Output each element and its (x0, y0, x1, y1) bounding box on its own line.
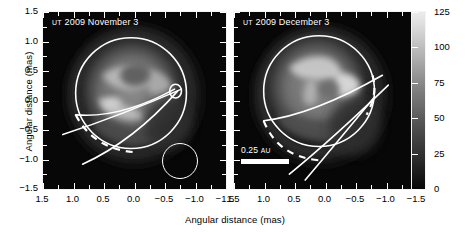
y-tick-minor (43, 86, 47, 87)
x-tick-major (74, 183, 75, 189)
y-tick-major (220, 130, 226, 131)
x-tick-minor (341, 12, 342, 16)
x-tick-label: 0.0 (117, 194, 151, 204)
x-tick-minor (211, 12, 212, 16)
colorbar-tick (412, 154, 418, 155)
y-tick-major (220, 160, 226, 161)
colorbar-tick-label: 75 (434, 78, 460, 88)
y-tick-major (220, 42, 226, 43)
beam-size-circle (162, 143, 198, 179)
x-axis-label: Angular distance (mas) (120, 214, 350, 225)
colorbar-tick-label: 0 (434, 184, 460, 194)
x-tick-major (43, 183, 44, 189)
y-tick-major (43, 101, 49, 102)
y-tick-label: −1.0 (8, 154, 38, 164)
x-tick-minor (150, 185, 151, 189)
y-tick-major (220, 101, 226, 102)
y-tick-major (43, 189, 49, 190)
y-tick-minor (43, 115, 47, 116)
y-tick-minor (43, 27, 47, 28)
x-tick-major (196, 183, 197, 189)
y-tick-label: 1.5 (8, 6, 38, 16)
ut-prefix-december: UT (243, 19, 253, 26)
x-tick-label: −1.0 (178, 194, 212, 204)
y-tick-minor (222, 56, 226, 57)
x-tick-major (265, 183, 266, 189)
colorbar-tick-label: 25 (434, 149, 460, 159)
colorbar-tick (412, 118, 418, 119)
x-tick-label: 0.5 (277, 194, 311, 204)
y-tick-minor (234, 174, 238, 175)
x-tick-major (295, 183, 296, 189)
y-tick-major (43, 71, 49, 72)
x-tick-minor (310, 12, 311, 16)
y-tick-minor (222, 145, 226, 146)
scale-bar-unit: AU (261, 147, 271, 154)
x-tick-minor (211, 185, 212, 189)
y-tick-minor (222, 115, 226, 116)
panel-november[interactable]: UT 2009 November 3 (42, 11, 227, 190)
x-tick-major (196, 12, 197, 18)
x-tick-minor (280, 185, 281, 189)
x-tick-label: 1.0 (247, 194, 281, 204)
x-tick-minor (249, 185, 250, 189)
x-tick-major (135, 183, 136, 189)
x-tick-major (165, 183, 166, 189)
y-tick-minor (43, 145, 47, 146)
x-tick-minor (58, 12, 59, 16)
x-tick-major (234, 183, 235, 189)
y-tick-major (234, 101, 240, 102)
colorbar-tick-label: 100 (434, 42, 460, 52)
x-tick-minor (89, 12, 90, 16)
y-tick-label: 1.0 (8, 36, 38, 46)
x-tick-major (165, 12, 166, 18)
x-tick-minor (119, 12, 120, 16)
x-tick-major (234, 12, 235, 18)
x-tick-label: 1.5 (216, 194, 250, 204)
y-tick-minor (222, 27, 226, 28)
x-tick-minor (180, 185, 181, 189)
ut-prefix-november: UT (52, 19, 62, 26)
x-tick-label: −1.5 (399, 194, 433, 204)
x-tick-label: −0.5 (338, 194, 372, 204)
colorbar-tick (412, 12, 418, 13)
x-tick-major (104, 183, 105, 189)
colorbar-tick (412, 47, 418, 48)
y-tick-minor (234, 56, 238, 57)
x-tick-major (226, 12, 227, 18)
y-tick-label: 0.0 (8, 95, 38, 105)
y-tick-major (234, 189, 240, 190)
y-tick-major (234, 71, 240, 72)
x-tick-minor (402, 185, 403, 189)
x-tick-major (387, 12, 388, 18)
scale-bar: 0.25 AU (241, 145, 289, 164)
scale-bar-value: 0.25 (241, 145, 258, 155)
y-tick-major (220, 71, 226, 72)
x-tick-major (43, 12, 44, 18)
colorbar-tick (412, 83, 418, 84)
y-tick-minor (234, 86, 238, 87)
colorbar-tick (412, 189, 418, 190)
x-tick-minor (310, 185, 311, 189)
y-tick-minor (234, 145, 238, 146)
scale-bar-rect (241, 159, 289, 164)
figure-root: Angular distance (mas) (0, 0, 470, 232)
x-tick-minor (371, 185, 372, 189)
y-tick-major (220, 189, 226, 190)
x-tick-minor (180, 12, 181, 16)
x-tick-major (387, 183, 388, 189)
y-tick-major (43, 130, 49, 131)
x-tick-label: 0.0 (308, 194, 342, 204)
y-tick-minor (43, 56, 47, 57)
y-tick-minor (222, 174, 226, 175)
panel-title-december: UT 2009 December 3 (243, 17, 329, 27)
x-tick-label: 1.5 (25, 194, 59, 204)
x-tick-label: −0.5 (147, 194, 181, 204)
y-tick-major (234, 130, 240, 131)
panel-december[interactable]: UT 2009 December 3 0.25 AU (233, 11, 418, 190)
x-tick-minor (249, 12, 250, 16)
x-tick-major (356, 12, 357, 18)
x-tick-minor (119, 185, 120, 189)
scale-bar-label: 0.25 AU (241, 145, 289, 155)
x-tick-minor (341, 185, 342, 189)
